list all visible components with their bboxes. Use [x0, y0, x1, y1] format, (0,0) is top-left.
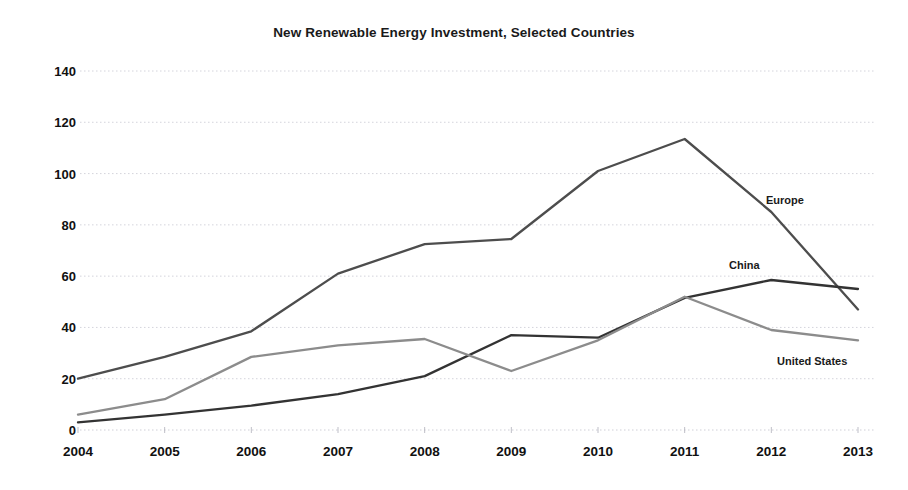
plot-area — [0, 0, 908, 490]
series-label-china: China — [729, 259, 760, 271]
gridlines — [78, 71, 875, 433]
line-chart: New Renewable Energy Investment, Selecte… — [0, 0, 908, 490]
series-line-china — [78, 280, 858, 422]
series-label-united-states: United States — [777, 355, 847, 367]
series-line-united-states — [78, 297, 858, 415]
series-lines — [78, 139, 858, 422]
series-label-europe: Europe — [766, 194, 804, 206]
